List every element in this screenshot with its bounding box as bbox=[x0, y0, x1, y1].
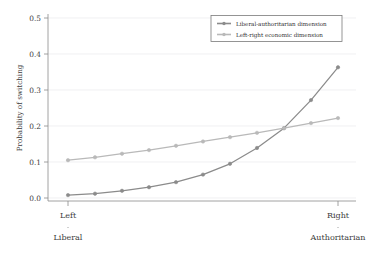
data-point-marker bbox=[336, 66, 339, 69]
data-point-marker bbox=[120, 152, 123, 155]
series-1 bbox=[66, 66, 339, 197]
data-point-marker bbox=[309, 121, 312, 124]
y-tick-label: 0.2 bbox=[29, 122, 41, 131]
x-label-left-primary: Left bbox=[60, 211, 77, 220]
x-label-left-secondary: Liberal bbox=[54, 233, 83, 242]
legend: Liberal-authoritarian dimensionLeft-righ… bbox=[211, 16, 342, 42]
data-point-marker bbox=[147, 186, 150, 189]
data-point-marker bbox=[201, 173, 204, 176]
x-label-right-primary: Right bbox=[327, 211, 350, 220]
y-tick-label: 0.5 bbox=[29, 14, 41, 23]
data-point-marker bbox=[93, 192, 96, 195]
series-2 bbox=[66, 116, 339, 162]
y-tick-label: 0.4 bbox=[29, 50, 41, 59]
data-point-marker bbox=[228, 162, 231, 165]
data-point-marker bbox=[228, 135, 231, 138]
data-point-marker bbox=[174, 180, 177, 183]
data-point-marker bbox=[147, 148, 150, 151]
grid-lines bbox=[48, 18, 356, 198]
data-point-marker bbox=[66, 159, 69, 162]
data-point-marker bbox=[66, 193, 69, 196]
y-tick-label: 0.3 bbox=[29, 86, 41, 95]
data-point-marker bbox=[255, 131, 258, 134]
data-point-marker bbox=[282, 126, 285, 129]
data-point-marker bbox=[120, 189, 123, 192]
data-point-marker bbox=[201, 140, 204, 143]
data-point-marker bbox=[255, 146, 258, 149]
data-point-marker bbox=[174, 144, 177, 147]
legend-swatch-marker bbox=[222, 22, 225, 25]
series-line bbox=[68, 118, 338, 160]
series-layer bbox=[66, 66, 339, 197]
legend-label: Liberal-authoritarian dimension bbox=[236, 21, 327, 27]
y-tick-label: 0.1 bbox=[29, 158, 41, 167]
legend-swatch-marker bbox=[222, 33, 225, 36]
y-tick-label: 0.0 bbox=[29, 194, 41, 203]
y-axis-title: Probability of switching bbox=[15, 64, 24, 151]
data-point-marker bbox=[309, 98, 312, 101]
probability-of-switching-line-chart: 0.00.10.20.30.40.5 Probability of switch… bbox=[0, 0, 370, 255]
data-point-marker bbox=[93, 156, 96, 159]
legend-frame bbox=[211, 16, 342, 42]
legend-label: Left-right economic dimension bbox=[236, 32, 323, 39]
y-axis-ticks: 0.00.10.20.30.40.5 bbox=[29, 14, 48, 203]
chart-container: 0.00.10.20.30.40.5 Probability of switch… bbox=[0, 0, 370, 255]
x-label-right-secondary: Authoritarian bbox=[310, 233, 366, 242]
data-point-marker bbox=[336, 116, 339, 119]
